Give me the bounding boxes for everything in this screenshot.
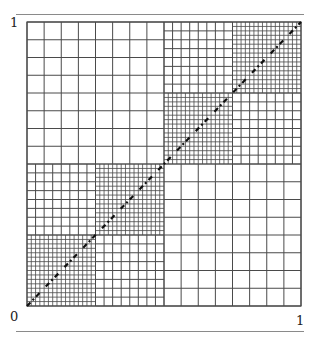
upper-right-offdiag-a — [164, 22, 233, 93]
top-left-quadrant — [27, 22, 164, 164]
lower-left-offdiag-b — [96, 235, 165, 306]
hierarchical-grid-diagram — [0, 0, 315, 345]
lower-left-offdiag-a — [27, 164, 96, 235]
bottom-right-quadrant — [164, 164, 301, 306]
upper-right-offdiag-b — [233, 93, 302, 164]
